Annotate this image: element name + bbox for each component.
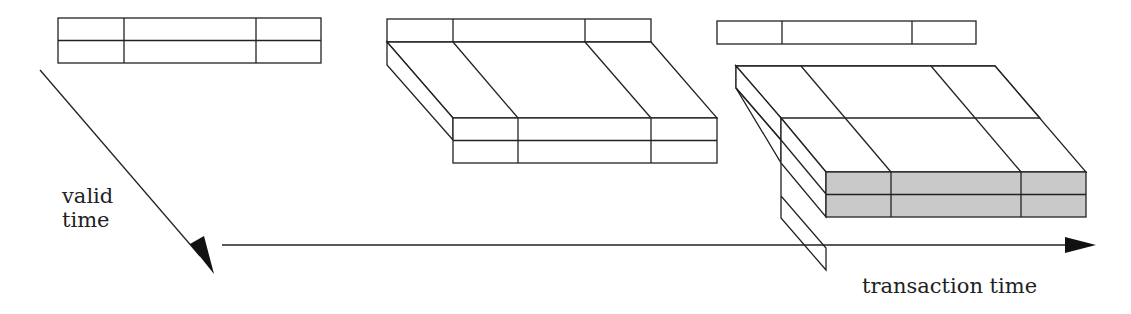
valid-time-table: [387, 19, 717, 163]
transaction-time-label: transaction time: [862, 274, 1037, 298]
valid-time-label-line1: valid: [62, 184, 113, 208]
valid-time-label: valid time: [62, 184, 113, 232]
valid-time-label-line2: time: [62, 208, 113, 232]
snapshot-table: [58, 18, 321, 63]
bitemporal-table: [717, 21, 1086, 270]
valid-time-arrow: [40, 70, 214, 274]
diagram-canvas: [0, 0, 1131, 314]
transaction-time-arrow: [222, 237, 1096, 253]
